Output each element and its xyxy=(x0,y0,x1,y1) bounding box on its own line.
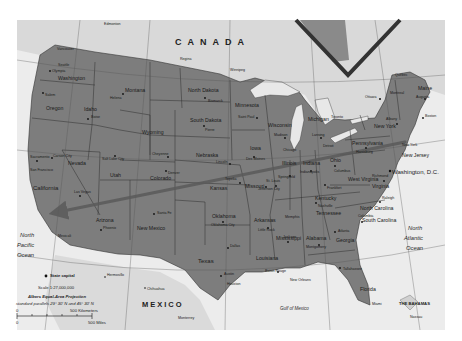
svg-text:Winnipeg: Winnipeg xyxy=(230,68,245,72)
svg-text:Hermosillo: Hermosillo xyxy=(107,273,124,277)
svg-text:San Francisco: San Francisco xyxy=(30,168,53,172)
svg-text:Memphis: Memphis xyxy=(285,215,300,219)
svg-text:Albany: Albany xyxy=(386,117,397,121)
label-pacific-3: Ocean xyxy=(17,252,34,258)
svg-text:Arizona: Arizona xyxy=(96,217,114,223)
svg-text:500 Kilometers: 500 Kilometers xyxy=(70,308,98,313)
svg-text:Québec: Québec xyxy=(395,73,408,77)
svg-text:California: California xyxy=(33,185,59,191)
svg-text:Helena: Helena xyxy=(110,96,121,100)
label-gulf: Gulf of Mexico xyxy=(280,306,309,311)
svg-text:Des Moines: Des Moines xyxy=(246,157,265,161)
svg-text:Jefferson City: Jefferson City xyxy=(258,187,280,191)
svg-text:Miami: Miami xyxy=(372,302,382,306)
svg-text:Oklahoma: Oklahoma xyxy=(212,213,236,219)
svg-text:Cheyenne: Cheyenne xyxy=(152,152,168,156)
svg-text:State capital: State capital xyxy=(50,273,75,278)
svg-text:Kentucky: Kentucky xyxy=(315,195,337,201)
svg-text:Atlanta: Atlanta xyxy=(338,229,349,233)
svg-text:Michigan: Michigan xyxy=(308,116,329,122)
svg-text:Richmond: Richmond xyxy=(372,174,388,178)
svg-text:St. Louis: St. Louis xyxy=(266,179,280,183)
svg-text:Chihuahua: Chihuahua xyxy=(147,287,164,291)
svg-text:Lincoln: Lincoln xyxy=(216,160,227,164)
svg-text:Chicago: Chicago xyxy=(283,148,296,152)
svg-text:Montreal: Montreal xyxy=(390,91,404,95)
svg-text:Boise: Boise xyxy=(91,115,100,119)
svg-text:Columbus: Columbus xyxy=(334,169,350,173)
svg-text:Kansas: Kansas xyxy=(210,185,228,191)
svg-text:Utah: Utah xyxy=(110,172,121,178)
svg-text:Wyoming: Wyoming xyxy=(142,129,164,135)
svg-text:Mexicali: Mexicali xyxy=(58,234,71,238)
svg-text:Seattle: Seattle xyxy=(58,63,69,67)
svg-text:Regina: Regina xyxy=(180,57,191,61)
svg-text:Bismarck: Bismarck xyxy=(208,99,223,103)
svg-text:Topeka: Topeka xyxy=(225,177,237,181)
svg-text:Carson City: Carson City xyxy=(53,154,72,158)
svg-text:Raleigh: Raleigh xyxy=(382,196,394,200)
svg-text:Santa Fe: Santa Fe xyxy=(157,211,172,215)
svg-text:Saint Paul: Saint Paul xyxy=(238,115,255,119)
svg-text:Monterrey: Monterrey xyxy=(178,316,194,320)
svg-text:Maine: Maine xyxy=(418,85,432,91)
svg-text:Tallahassee: Tallahassee xyxy=(343,267,362,271)
svg-text:Nevada: Nevada xyxy=(68,160,86,166)
svg-text:Salem: Salem xyxy=(45,93,55,97)
svg-text:Ohio: Ohio xyxy=(330,157,341,163)
svg-text:Montgomery: Montgomery xyxy=(306,245,326,249)
svg-text:Harrisburg: Harrisburg xyxy=(356,150,373,154)
svg-text:Jackson: Jackson xyxy=(283,235,296,239)
svg-text:Louisiana: Louisiana xyxy=(256,255,278,261)
svg-text:Iowa: Iowa xyxy=(250,145,261,151)
svg-text:Colorado: Colorado xyxy=(150,175,171,181)
svg-text:Virginia: Virginia xyxy=(372,183,389,189)
svg-text:Nebraska: Nebraska xyxy=(196,152,218,158)
svg-text:Springfield: Springfield xyxy=(278,175,295,179)
svg-text:Frankfort: Frankfort xyxy=(327,186,341,190)
svg-text:Madison: Madison xyxy=(274,133,288,137)
svg-text:Columbia: Columbia xyxy=(358,214,373,218)
svg-text:Pierre: Pierre xyxy=(205,128,215,132)
svg-text:standard parallels 29° 30' N a: standard parallels 29° 30' N and 45° 30'… xyxy=(16,301,95,306)
svg-text:Minnesota: Minnesota xyxy=(235,102,259,108)
svg-text:Salt Lake City: Salt Lake City xyxy=(102,157,124,161)
svg-text:Lansing: Lansing xyxy=(312,133,325,137)
svg-text:Tennessee: Tennessee xyxy=(316,210,341,216)
svg-text:Vancouver: Vancouver xyxy=(57,47,75,51)
svg-text:Little Rock: Little Rock xyxy=(258,228,275,232)
svg-text:Georgia: Georgia xyxy=(336,237,355,243)
svg-text:Olympia: Olympia xyxy=(52,69,65,73)
label-atlantic-3: Ocean xyxy=(406,245,423,251)
svg-text:Florida: Florida xyxy=(360,286,376,292)
label-atlantic-2: Atlantic xyxy=(403,235,423,241)
svg-text:Austin: Austin xyxy=(224,272,234,276)
svg-text:New Mexico: New Mexico xyxy=(137,225,165,231)
svg-text:New York: New York xyxy=(374,123,396,129)
svg-text:South Dakota: South Dakota xyxy=(190,117,222,123)
svg-text:North Carolina: North Carolina xyxy=(360,205,394,211)
svg-text:Houston: Houston xyxy=(227,282,240,286)
label-bahamas: THE BAHAMAS xyxy=(399,301,430,306)
svg-text:Boston: Boston xyxy=(425,114,436,118)
label-pacific-1: North xyxy=(20,232,34,238)
svg-text:Indianapolis: Indianapolis xyxy=(300,170,319,174)
svg-text:Phoenix: Phoenix xyxy=(103,226,116,230)
svg-text:Illinois: Illinois xyxy=(282,160,297,166)
svg-text:Baton Rouge: Baton Rouge xyxy=(265,269,286,273)
svg-text:Indiana: Indiana xyxy=(303,160,320,166)
svg-text:Washington: Washington xyxy=(58,75,85,81)
svg-text:Oklahoma City: Oklahoma City xyxy=(211,223,235,227)
svg-text:New York: New York xyxy=(402,143,417,147)
svg-text:North Dakota: North Dakota xyxy=(188,87,219,93)
svg-text:Pennsylvania: Pennsylvania xyxy=(352,140,383,146)
svg-text:New Jersey: New Jersey xyxy=(402,152,430,158)
svg-text:Nassau: Nassau xyxy=(410,315,422,319)
svg-text:Sacramento: Sacramento xyxy=(30,155,49,159)
svg-text:Ottawa: Ottawa xyxy=(365,95,376,99)
svg-text:Las Vegas: Las Vegas xyxy=(74,190,91,194)
svg-text:Oregon: Oregon xyxy=(46,105,63,111)
svg-text:Idaho: Idaho xyxy=(84,106,97,112)
svg-text:Alabama: Alabama xyxy=(306,235,327,241)
label-atlantic-1: North xyxy=(408,225,422,231)
